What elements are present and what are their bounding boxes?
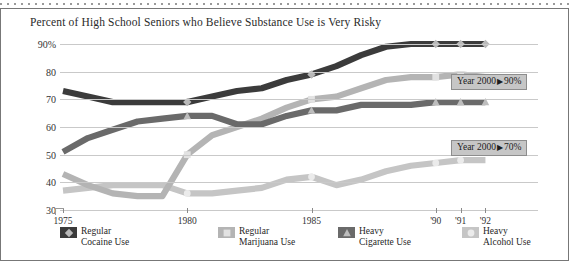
legend-item-marijuana-use[interactable]: RegularMarijuana Use: [218, 226, 295, 247]
x-tick-label-1992: '92: [480, 216, 491, 226]
square-marker-icon: [218, 227, 235, 238]
x-tick-1991: [461, 208, 462, 213]
legend-label-line2: Marijuana Use: [239, 237, 295, 248]
legend-item-cigarette-use[interactable]: HeavyCigarette Use: [338, 226, 411, 247]
legend-label-line1: Heavy: [359, 226, 411, 237]
callout-value-1: 70%: [504, 142, 521, 152]
x-tick-1992: [485, 208, 486, 213]
legend-label-line1: Regular: [239, 226, 295, 237]
x-tick-label-1975: 1975: [54, 216, 73, 226]
callout-label-0: Year 2000: [457, 76, 496, 86]
legend-label-line1: Regular: [81, 226, 129, 237]
chart-legend: RegularCocaine UseRegularMarijuana UseHe…: [0, 226, 571, 260]
legend-swatch: [60, 227, 77, 238]
legend-label-line2: Cocaine Use: [81, 237, 129, 248]
legend-label: HeavyCigarette Use: [359, 226, 411, 247]
axis-origin-bracket: [55, 208, 64, 215]
legend-item-cocaine-use[interactable]: RegularCocaine Use: [60, 226, 129, 247]
legend-swatch: [218, 227, 235, 238]
x-axis: 197519801985'90'91'922000/ /: [0, 0, 571, 263]
legend-label: RegularCocaine Use: [81, 226, 129, 247]
x-tick-label-1985: 1985: [302, 216, 321, 226]
legend-item-alcohol-use[interactable]: HeavyAlcohol Use: [462, 226, 531, 247]
legend-label-line2: Alcohol Use: [483, 237, 531, 248]
legend-swatch: [338, 227, 355, 238]
legend-label-line1: Heavy: [483, 226, 531, 237]
triangle-marker-icon: [338, 227, 355, 238]
callout-value-0: 90%: [504, 76, 521, 86]
legend-label-line2: Cigarette Use: [359, 237, 411, 248]
circle-marker-icon: [462, 227, 479, 238]
x-tick-1985: [312, 208, 313, 213]
x-tick-label-1990: '90: [430, 216, 441, 226]
x-tick-label-1991: '91: [455, 216, 466, 226]
x-tick-1980: [187, 208, 188, 213]
callout-arrow-icon-0: ▶: [496, 77, 504, 86]
legend-label: RegularMarijuana Use: [239, 226, 295, 247]
callout-label-1: Year 2000: [457, 142, 496, 152]
diamond-marker-icon: [60, 227, 77, 238]
callout-year-2000-70: Year 2000▶70%: [451, 140, 527, 156]
x-tick-1990: [436, 208, 437, 213]
x-tick-label-1980: 1980: [178, 216, 197, 226]
callout-year-2000-90: Year 2000▶90%: [451, 74, 527, 90]
callout-arrow-icon-1: ▶: [496, 143, 504, 152]
chart-page: Percent of High School Seniors who Belie…: [0, 0, 571, 263]
legend-swatch: [462, 227, 479, 238]
legend-label: HeavyAlcohol Use: [483, 226, 531, 247]
